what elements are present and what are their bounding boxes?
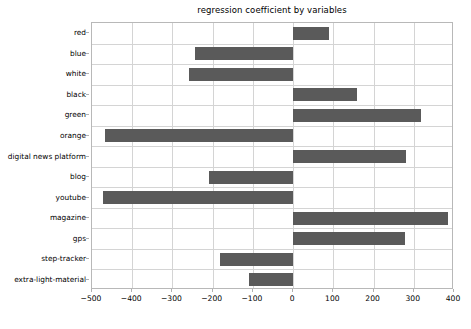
y-tick-label-green: green: [65, 110, 86, 119]
x-tick-label-0: 0: [290, 294, 295, 303]
y-tick-mark: [86, 258, 89, 259]
bar: [209, 171, 293, 184]
gridline-horizontal: [92, 64, 452, 65]
bar: [293, 150, 406, 163]
chart-title: regression coefficient by variables: [91, 5, 453, 15]
bar: [195, 47, 294, 60]
x-tick-mark: [212, 289, 213, 292]
y-tick-label-magazine: magazine: [50, 213, 86, 222]
gridline-horizontal: [92, 85, 452, 86]
y-tick-label-white: white: [66, 69, 86, 78]
figure-canvas: regression coefficient by variables redb…: [0, 0, 471, 329]
y-tick-mark: [86, 73, 89, 74]
x-tick-mark: [252, 289, 253, 292]
gridline-horizontal: [92, 249, 452, 250]
bar: [189, 68, 293, 81]
x-tick-label-300: 300: [406, 294, 421, 303]
y-tick-mark: [86, 176, 89, 177]
y-tick-mark: [86, 156, 89, 157]
bar: [293, 109, 421, 122]
y-tick-mark: [86, 53, 89, 54]
gridline-horizontal: [92, 167, 452, 168]
x-tick-label--300: −300: [161, 294, 182, 303]
x-tick-mark: [91, 289, 92, 292]
x-tick-mark: [171, 289, 172, 292]
y-tick-label-digital-news-platform: digital news platform: [8, 151, 86, 160]
gridline-horizontal: [92, 208, 452, 209]
bar: [293, 232, 405, 245]
bar: [293, 212, 448, 225]
gridline-horizontal: [92, 146, 452, 147]
x-tick-label--500: −500: [81, 294, 102, 303]
x-tick-mark: [413, 289, 414, 292]
bar: [105, 129, 293, 142]
x-tick-mark: [373, 289, 374, 292]
y-tick-mark: [86, 238, 89, 239]
y-axis-tick-labels: redbluewhiteblackgreenorangedigital news…: [0, 22, 86, 289]
y-tick-label-gps: gps: [73, 233, 86, 242]
y-tick-label-extra-light-material: extra-light-material: [14, 274, 86, 283]
x-tick-mark: [131, 289, 132, 292]
gridline-horizontal: [92, 44, 452, 45]
y-tick-label-blue: blue: [70, 48, 86, 57]
x-tick-mark: [292, 289, 293, 292]
y-tick-mark: [86, 114, 89, 115]
bar: [293, 27, 329, 40]
y-tick-mark: [86, 217, 89, 218]
gridline-horizontal: [92, 105, 452, 106]
plot-area: [91, 22, 453, 289]
gridline-horizontal: [92, 126, 452, 127]
x-tick-label-400: 400: [446, 294, 461, 303]
x-tick-mark: [453, 289, 454, 292]
y-tick-label-blog: blog: [70, 172, 86, 181]
x-tick-label-200: 200: [365, 294, 380, 303]
y-tick-mark: [86, 197, 89, 198]
y-tick-label-orange: orange: [60, 130, 86, 139]
gridline-horizontal: [92, 228, 452, 229]
y-tick-mark: [86, 94, 89, 95]
bar: [220, 253, 294, 266]
x-tick-label--200: −200: [201, 294, 222, 303]
gridline-horizontal: [92, 269, 452, 270]
bar: [249, 273, 293, 286]
x-tick-mark: [332, 289, 333, 292]
y-tick-label-step-tracker: step-tracker: [41, 254, 86, 263]
bar: [103, 191, 293, 204]
x-tick-label--100: −100: [241, 294, 262, 303]
y-tick-mark: [86, 135, 89, 136]
y-tick-mark: [86, 32, 89, 33]
y-tick-mark: [86, 279, 89, 280]
bar: [293, 88, 357, 101]
y-tick-label-black: black: [66, 89, 86, 98]
x-tick-label-100: 100: [325, 294, 340, 303]
x-tick-label--400: −400: [121, 294, 142, 303]
y-tick-label-youtube: youtube: [56, 192, 86, 201]
gridline-horizontal: [92, 187, 452, 188]
y-tick-label-red: red: [74, 28, 86, 37]
